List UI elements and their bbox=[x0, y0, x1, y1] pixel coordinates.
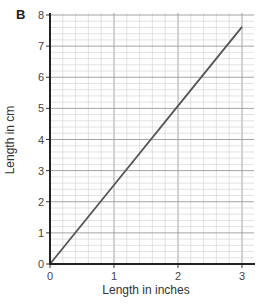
y-tick-label: 0 bbox=[38, 258, 44, 270]
y-tick-label: 3 bbox=[38, 165, 44, 177]
y-tick-label: 8 bbox=[38, 9, 44, 21]
x-tick-label: 3 bbox=[239, 270, 245, 282]
x-tick-label: 2 bbox=[175, 270, 181, 282]
y-tick-label: 7 bbox=[38, 40, 44, 52]
y-tick-label: 6 bbox=[38, 71, 44, 83]
y-tick-label: 5 bbox=[38, 102, 44, 114]
x-tick-label: 0 bbox=[47, 270, 53, 282]
x-tick-label: 1 bbox=[111, 270, 117, 282]
y-tick-label: 1 bbox=[38, 227, 44, 239]
line-chart: 0123456780123 bbox=[0, 0, 261, 307]
y-tick-label: 4 bbox=[38, 134, 44, 146]
y-tick-label: 2 bbox=[38, 196, 44, 208]
